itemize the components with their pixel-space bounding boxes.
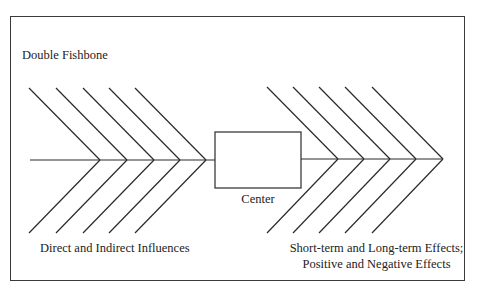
- left-label: Direct and Indirect Influences: [40, 240, 190, 256]
- right-upper-bone-3: [319, 87, 390, 159]
- left-upper-bone-3: [83, 88, 154, 160]
- right-lower-bone-4: [345, 159, 416, 233]
- right-lower-bone-5: [372, 159, 443, 233]
- left-upper-bone-2: [56, 88, 127, 160]
- right-upper-bone-1: [267, 87, 338, 159]
- left-lower-bone-5: [135, 160, 206, 233]
- right-upper-bone-5: [372, 87, 443, 159]
- right-label: Short-term and Long-term Effects; Positi…: [289, 240, 464, 272]
- left-lower-bone-3: [83, 160, 154, 233]
- right-upper-bone-2: [293, 87, 364, 159]
- right-lower-bone-2: [293, 159, 364, 233]
- left-upper-bone-1: [29, 88, 100, 160]
- right-upper-bone-4: [345, 87, 416, 159]
- diagram-title: Double Fishbone: [22, 47, 108, 63]
- left-lower-bone-4: [109, 160, 180, 233]
- left-lower-bone-2: [56, 160, 127, 233]
- right-lower-bone-3: [319, 159, 390, 233]
- center-box: [215, 132, 301, 188]
- right-bones: [267, 87, 443, 233]
- left-lower-bone-1: [29, 160, 100, 233]
- right-label-line1: Short-term and Long-term Effects;: [289, 240, 464, 256]
- left-upper-bone-5: [135, 88, 206, 160]
- center-label: Center: [234, 191, 282, 207]
- left-upper-bone-4: [109, 88, 180, 160]
- right-label-line2: Positive and Negative Effects: [289, 256, 464, 272]
